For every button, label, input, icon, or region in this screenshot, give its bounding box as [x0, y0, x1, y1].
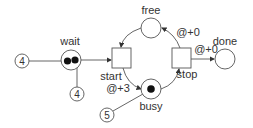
token [147, 85, 155, 93]
place-label: free [142, 4, 161, 16]
svg-text:5: 5 [104, 110, 110, 121]
place-free[interactable]: free [141, 4, 161, 38]
arc-label-stop-free: @+0 [176, 26, 200, 38]
token [71, 56, 78, 63]
timestamp-busy: 5 [100, 108, 114, 122]
transition-label: stop [177, 68, 198, 80]
place-busy[interactable]: busy [139, 79, 163, 112]
arc-label-start-busy: @+3 [106, 82, 130, 94]
token [64, 57, 71, 64]
svg-text:4: 4 [74, 89, 80, 100]
place-label: busy [139, 100, 163, 112]
petri-net-diagram: 4 4 5 wait free busy done start stop @+3… [0, 0, 253, 128]
place-label: wait [59, 35, 80, 47]
timestamp-wait-bottom: 4 [70, 87, 84, 101]
timestamp-wait-left: 4 [15, 54, 29, 68]
arc-label-stop-done: @+0 [194, 43, 218, 55]
svg-text:4: 4 [19, 56, 25, 67]
transition-label: start [100, 70, 121, 82]
arc-free-start [121, 28, 141, 47]
place-wait[interactable]: wait [59, 35, 81, 70]
